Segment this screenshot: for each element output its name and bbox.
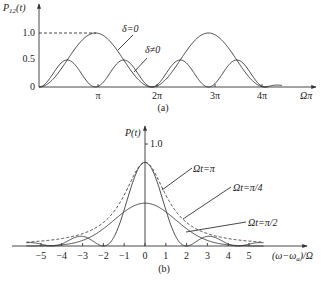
panel-a-ytick-1: 1.0 — [23, 27, 36, 38]
panel-b-xtick: −2 — [98, 250, 109, 261]
panel-b-xtick: −1 — [119, 250, 130, 261]
leader-delta-zero — [118, 35, 133, 50]
panel-b-caption: (b) — [158, 263, 170, 275]
panel-a: P12(t) 1.0 0.5 0 π 2π 3π 4π Ωπ δ=0 δ≠0 (… — [2, 2, 316, 114]
panel-a-xtick-2pi: 2π — [152, 90, 162, 101]
panel-b-xtick: −3 — [77, 250, 88, 261]
panel-b-xtick: 5 — [247, 250, 252, 261]
panel-b-xtick: −5 — [36, 250, 47, 261]
panel-a-y-label: P12(t) — [2, 2, 26, 15]
panel-b-x-label: (ω−ωa)/Ω — [272, 250, 313, 263]
panel-a-xtick-pi: π — [95, 90, 100, 101]
panel-b-xtick: 3 — [205, 250, 210, 261]
panel-a-ytick-05: 0.5 — [23, 53, 36, 64]
leader-omega-t-pi-2 — [186, 222, 246, 232]
panel-a-xtick-4pi: 4π — [257, 90, 267, 101]
panel-a-ytick-0: 0 — [30, 81, 35, 92]
leader-delta-nonzero — [134, 58, 147, 72]
curve-delta-nonzero — [39, 60, 282, 87]
annotation-delta-zero: δ=0 — [122, 23, 138, 34]
curve-delta-zero — [39, 33, 268, 87]
panel-b-xtick: 1 — [163, 250, 168, 261]
annotation-omega-t-pi-2: Ωt=π/2 — [248, 217, 278, 228]
annotation-omega-t-pi-4: Ωt=π/4 — [233, 182, 263, 193]
annotation-omega-t-pi: Ωt=π — [193, 163, 216, 174]
panel-a-caption: (a) — [157, 102, 168, 114]
leader-omega-t-pi-4 — [183, 187, 231, 219]
figure: P12(t) 1.0 0.5 0 π 2π 3π 4π Ωπ δ=0 δ≠0 (… — [0, 0, 328, 284]
panel-b: P(t) 1.0 −5−4−3−2−1012345 (ω−ωa)/Ω Ωt=π … — [12, 126, 313, 275]
panel-b-ytick-1: 1.0 — [150, 138, 163, 149]
panel-a-x-label: Ωπ — [300, 90, 313, 101]
panel-b-xtick: 0 — [143, 250, 148, 261]
annotation-delta-nonzero: δ≠0 — [145, 44, 160, 55]
panel-b-y-label: P(t) — [124, 127, 141, 139]
panel-a-xtick-3pi: 3π — [210, 90, 220, 101]
leader-omega-t-pi — [162, 168, 192, 190]
panel-b-xtick: 2 — [184, 250, 189, 261]
panel-b-xtick: 4 — [226, 250, 231, 261]
panel-b-xtick: −4 — [56, 250, 67, 261]
